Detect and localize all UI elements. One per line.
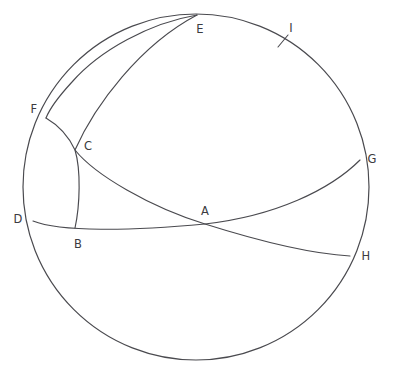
sphere-diagram-canvas bbox=[0, 0, 396, 376]
equator-arc-d-a-g bbox=[33, 160, 360, 229]
point-label-h: H bbox=[362, 251, 371, 263]
point-label-g: G bbox=[367, 154, 376, 166]
great-circle-arc-e-c-a-h bbox=[75, 15, 350, 256]
meridian-arc-f-c-b bbox=[46, 118, 79, 228]
sphere-diagram: A B C D E F G H I bbox=[0, 0, 396, 376]
point-label-f: F bbox=[31, 104, 38, 116]
point-label-a: A bbox=[201, 206, 209, 218]
point-label-d: D bbox=[13, 214, 22, 226]
point-label-i: I bbox=[289, 23, 293, 35]
point-label-c: C bbox=[84, 141, 92, 153]
sphere-outline-circle bbox=[23, 14, 369, 360]
point-label-e: E bbox=[196, 24, 203, 36]
point-label-b: B bbox=[74, 239, 82, 251]
